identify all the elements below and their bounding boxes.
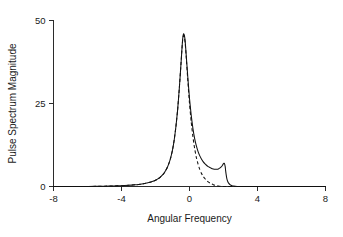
x-axis-ticks	[54, 187, 326, 192]
y-tick-label: 25	[35, 98, 46, 109]
x-tick-labels: -8-4048	[49, 193, 328, 204]
y-tick-labels: 02550	[35, 15, 46, 192]
x-tick-label: -4	[117, 193, 125, 204]
x-axis-title: Angular Frequency	[147, 213, 232, 224]
y-axis-title: Pulse Spectrum Magnitude	[7, 43, 18, 164]
x-tick-label: 8	[323, 193, 328, 204]
y-axis-ticks	[49, 21, 54, 187]
axes-group	[49, 21, 326, 192]
y-tick-label: 0	[40, 181, 45, 192]
x-tick-label: 4	[255, 193, 260, 204]
series-dashed-curve	[54, 35, 326, 186]
chart-figure: 02550 -8-4048 Angular Frequency Pulse Sp…	[0, 0, 343, 237]
x-tick-label: -8	[49, 193, 57, 204]
series-group	[54, 34, 326, 187]
pulse-spectrum-chart: 02550 -8-4048 Angular Frequency Pulse Sp…	[0, 0, 343, 237]
y-tick-label: 50	[35, 15, 46, 26]
series-solid-curve	[54, 34, 326, 187]
x-tick-label: 0	[187, 193, 192, 204]
